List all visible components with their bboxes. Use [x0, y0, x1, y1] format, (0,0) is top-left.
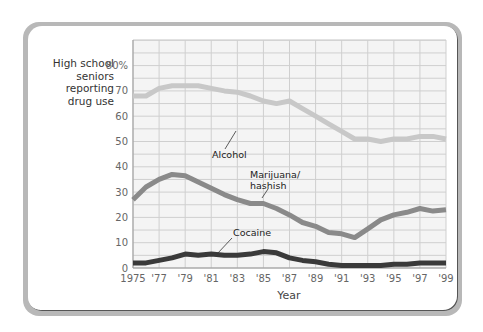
y-tick-label: 70 [115, 85, 128, 96]
y-tick-label: 50 [115, 136, 128, 147]
x-tick-label: '99 [438, 273, 453, 284]
cocaine-label: Cocaine [233, 227, 271, 238]
alcohol-label: Alcohol [212, 149, 247, 160]
y-tick-label: 80% [106, 60, 128, 71]
line-chart: 01020304050607080%1975'77'79'81'83'85'87… [0, 0, 483, 332]
y-tick-label: 40 [115, 161, 128, 172]
x-tick-label: '79 [177, 273, 192, 284]
x-tick-label: '95 [386, 273, 401, 284]
marijuana-label-line2: hashish [250, 180, 286, 191]
x-tick-label: '83 [230, 273, 245, 284]
x-tick-label: 1975 [120, 273, 145, 284]
x-axis-title: Year [276, 289, 301, 302]
y-tick-label: 10 [115, 237, 128, 248]
grid [133, 40, 446, 268]
x-tick-label: '81 [204, 273, 219, 284]
x-tick-label: '87 [282, 273, 297, 284]
y-tick-label: 30 [115, 187, 128, 198]
y-tick-label: 0 [122, 263, 128, 274]
x-tick-label: '85 [256, 273, 271, 284]
y-tick-label: 60 [115, 111, 128, 122]
x-tick-label: '97 [412, 273, 427, 284]
x-tick-label: '77 [151, 273, 166, 284]
x-tick-label: '91 [334, 273, 349, 284]
y-tick-label: 20 [115, 212, 128, 223]
marijuana-label-line1: Marijuana/ [250, 169, 301, 180]
x-tick-label: '93 [360, 273, 375, 284]
x-tick-label: '89 [308, 273, 323, 284]
